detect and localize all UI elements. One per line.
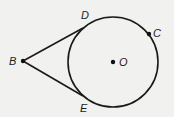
- label-b: B: [9, 55, 16, 67]
- point-b: [21, 59, 25, 63]
- tangent-bd: [23, 28, 83, 61]
- geometry-diagram: B D E C O: [0, 0, 174, 117]
- label-d: D: [81, 9, 89, 21]
- tangent-be: [23, 61, 83, 96]
- label-e: E: [80, 102, 88, 114]
- label-o: O: [119, 56, 128, 68]
- diagram-canvas: B D E C O: [0, 0, 174, 117]
- point-c: [147, 32, 151, 36]
- label-c: C: [153, 27, 161, 39]
- point-o: [111, 60, 115, 64]
